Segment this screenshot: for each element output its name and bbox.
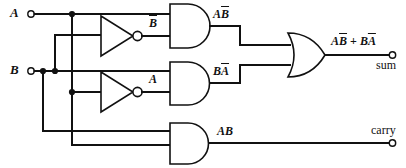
and-mid-term-b: B [213, 64, 221, 78]
and-top-term-bbar: B [221, 7, 229, 21]
not-gate-b-body [101, 16, 133, 56]
signal-label-not-b: B [149, 17, 157, 29]
junction-b-to-and-bottom [40, 68, 46, 74]
circuit-schematic-svg [0, 0, 406, 168]
sum-term2-abar: A [368, 34, 376, 48]
sum-term2-b: B [360, 34, 368, 48]
signal-label-and-top: AB [213, 8, 229, 20]
and-mid-term-abar: A [221, 64, 229, 78]
signal-label-not-b-text: B [149, 16, 157, 30]
and-gate-top-body [170, 4, 210, 48]
output-label-sum: sum [376, 59, 396, 71]
signal-label-sum-expression: AB + BA [331, 35, 376, 47]
junction-a-to-not-a [69, 89, 75, 95]
and-gate-bottom-body [170, 123, 208, 164]
junction-a-trunk [69, 11, 75, 17]
output-terminal-carry[interactable] [389, 140, 395, 146]
sum-term1-bbar: B [339, 34, 347, 48]
not-gate-a-bubble-icon [133, 87, 142, 96]
signal-label-not-a: A [149, 73, 157, 85]
and-top-term-a: A [213, 7, 221, 21]
input-label-b: B [10, 63, 19, 76]
output-label-carry: carry [371, 124, 396, 136]
wire-and-top-out-to-or [210, 26, 290, 45]
input-terminal-a[interactable] [28, 11, 34, 17]
logic-circuit-diagram: A B B A AB BA AB AB + BA sum carry [0, 0, 406, 168]
junction-b-to-not-b [52, 68, 58, 74]
signal-label-not-a-text: A [149, 72, 157, 86]
sum-plus-operator: + [347, 34, 360, 48]
signal-label-and-middle: BA [213, 65, 229, 77]
and-gate-middle-body [170, 62, 210, 105]
or-gate-sum-body [288, 33, 325, 77]
input-label-a: A [10, 6, 19, 19]
sum-term1-a: A [331, 34, 339, 48]
signal-label-and-bottom: AB [217, 125, 233, 137]
not-gate-a-body [101, 72, 133, 112]
input-terminal-b[interactable] [28, 68, 34, 74]
not-gate-b-bubble-icon [133, 31, 142, 40]
